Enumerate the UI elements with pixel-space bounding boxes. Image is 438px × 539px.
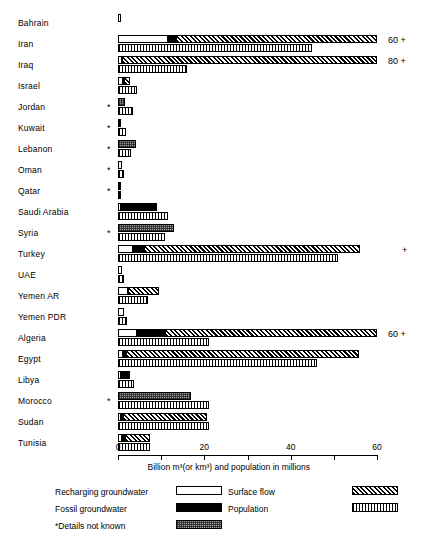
axis-tick-label: 60 (372, 442, 381, 452)
legend-swatch (176, 486, 222, 495)
axis-tick (161, 455, 162, 460)
axis-tick-label: 0 (116, 442, 121, 452)
axis-tick (248, 455, 249, 460)
axis-tick (291, 455, 292, 460)
axis-tick-label: 40 (286, 442, 295, 452)
legend-swatch (352, 503, 398, 512)
legend-label: Surface flow (228, 487, 275, 497)
axis-tick (204, 455, 205, 460)
water-resources-bar-chart: BahrainIran60 +Iraq80 +IsraelJordan*Kuwa… (0, 0, 438, 539)
legend-label: Population (228, 504, 268, 514)
x-axis: 0204060Billion m³(or km³) and population… (0, 0, 438, 539)
legend-swatch (352, 486, 398, 495)
legend-label: *Details not known (55, 521, 125, 531)
axis-tick (377, 455, 378, 460)
axis-tick (118, 455, 119, 460)
legend-swatch (176, 503, 222, 512)
axis-tick-label: 20 (200, 442, 209, 452)
chart-legend: Recharging groundwaterFossil groundwater… (0, 487, 438, 539)
axis-tick (334, 455, 335, 460)
legend-label: Fossil groundwater (55, 504, 127, 514)
axis-title: Billion m³(or km³) and population in mil… (147, 462, 310, 472)
legend-swatch (176, 520, 222, 529)
legend-label: Recharging groundwater (55, 487, 148, 497)
